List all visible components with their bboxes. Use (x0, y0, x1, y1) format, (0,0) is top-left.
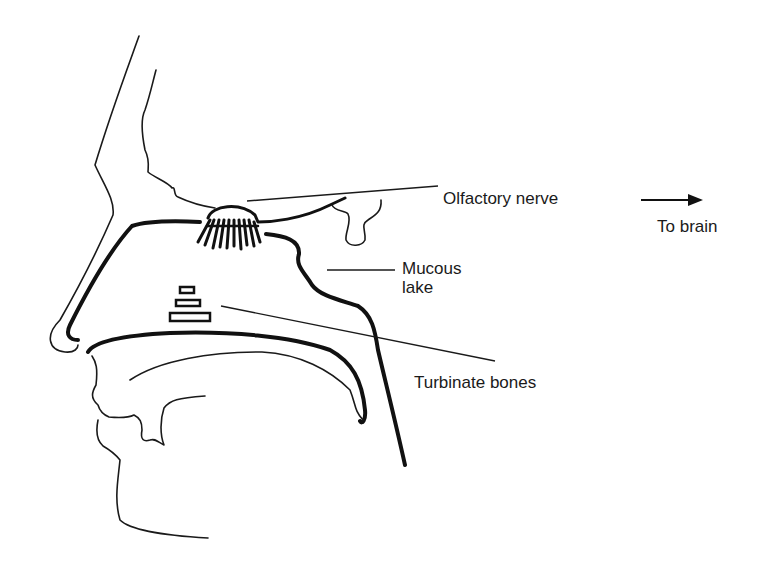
chin-outline (97, 420, 208, 538)
palate-lower-surface (130, 352, 363, 420)
nasal-cavity-diagram (0, 0, 782, 574)
mucous-lake-label-line2: lake (402, 278, 433, 298)
olfactory-nerve-label: Olfactory nerve (443, 189, 558, 209)
sphenoid-sinus-shape (332, 200, 381, 245)
turbinate-bones (170, 287, 210, 321)
pharynx-posterior-wall (266, 234, 405, 465)
olfactory-bulb (208, 198, 345, 222)
hard-palate (88, 333, 365, 423)
to-brain-label: To brain (657, 217, 717, 237)
turbinate-bones-label: Turbinate bones (414, 373, 536, 393)
olfactory-nerve-fibers (198, 220, 260, 249)
nasal-bridge-line (142, 70, 215, 208)
face-profile-outline (50, 36, 139, 352)
right-arrow-icon (641, 194, 703, 206)
mucous-lake-label-line1: Mucous (402, 259, 462, 279)
